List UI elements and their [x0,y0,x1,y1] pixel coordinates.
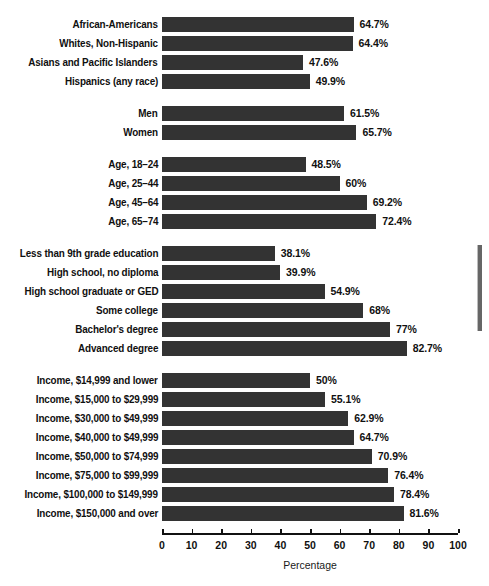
bar-label: Age, 25–44 [108,176,158,191]
bar-value-label: 77% [396,322,417,337]
bar [162,195,367,210]
bar-row: Income, $50,000 to $74,99970.9% [0,449,489,464]
x-axis-title: Percentage [162,559,458,571]
bar [162,506,404,521]
bar-label: African-Americans [73,17,158,32]
bar-value-label: 62.9% [354,411,383,426]
x-axis-tick [251,529,253,533]
bar-label: Income, $30,000 to $49,999 [35,411,158,426]
bar-label: Women [123,125,158,140]
bar-label: Income, $150,000 and over [36,506,158,521]
bar-label: Income, $75,000 to $99,999 [35,468,158,483]
bar-row: Age, 65–7472.4% [0,214,489,229]
bar-chart: African-Americans64.7%Whites, Non-Hispan… [0,0,489,586]
bar-value-label: 60% [346,176,367,191]
bar-row: Less than 9th grade education38.1% [0,246,489,261]
bar-value-label: 49.9% [316,74,345,89]
bar [162,106,344,121]
bar-label: Income, $14,999 and lower [37,373,158,388]
bar-value-label: 64.7% [360,17,389,32]
bar-row: Income, $75,000 to $99,99976.4% [0,468,489,483]
bar-row: Women65.7% [0,125,489,140]
bar-label: Bachelor's degree [75,322,158,337]
x-axis-tick [340,529,342,533]
x-axis-tick [399,529,401,533]
bar-value-label: 68% [369,303,390,318]
bar-row: Whites, Non-Hispanic64.4% [0,36,489,51]
bar-row: Income, $100,000 to $149,99978.4% [0,487,489,502]
bar [162,17,354,32]
bar-row: Some college68% [0,303,489,318]
bar [162,449,372,464]
bar-value-label: 54.9% [331,284,360,299]
bar-row: Age, 18–2448.5% [0,157,489,172]
x-axis-tick [280,529,282,533]
bar-row: High school, no diploma39.9% [0,265,489,280]
bar-value-label: 47.6% [309,55,338,70]
bar-label: Income, $50,000 to $74,999 [35,449,158,464]
bar-label: Hispanics (any race) [65,74,158,89]
bar [162,157,306,172]
bar-label: High school, no diploma [47,265,158,280]
bar-value-label: 76.4% [394,468,423,483]
bar-label: Men [139,106,158,121]
bar-label: Age, 45–64 [108,195,158,210]
x-axis-line [162,533,458,535]
bar-label: High school graduate or GED [24,284,158,299]
bar-value-label: 38.1% [281,246,310,261]
x-axis-tick [369,529,371,533]
bar [162,487,394,502]
bar [162,265,280,280]
bar-row: Hispanics (any race)49.9% [0,74,489,89]
bar-label: Income, $40,000 to $49,999 [35,430,158,445]
bar-value-label: 61.5% [350,106,379,121]
bar-row: Income, $15,000 to $29,99955.1% [0,392,489,407]
bar [162,468,388,483]
bar-value-label: 78.4% [400,487,429,502]
bar-row: Advanced degree82.7% [0,341,489,356]
bar-row: Age, 45–6469.2% [0,195,489,210]
x-axis-tick [192,529,194,533]
bar-value-label: 50% [316,373,337,388]
bar-row: Income, $14,999 and lower50% [0,373,489,388]
bar-value-label: 81.6% [410,506,439,521]
bar-value-label: 82.7% [413,341,442,356]
x-axis-tick [310,529,312,533]
x-axis-tick-label: 100 [438,539,478,551]
bar [162,411,348,426]
bar-label: Income, $100,000 to $149,999 [25,487,158,502]
bar-label: Whites, Non-Hispanic [59,36,158,51]
bar [162,36,353,51]
x-axis-tick [458,529,460,533]
bar [162,246,275,261]
bar-label: Asians and Pacific Islanders [29,55,158,70]
bar [162,373,310,388]
bar-value-label: 64.7% [360,430,389,445]
bar [162,214,376,229]
bar-row: High school graduate or GED54.9% [0,284,489,299]
bar-value-label: 70.9% [378,449,407,464]
x-axis-tick [162,529,164,533]
bar [162,284,325,299]
bar-label: Some college [96,303,158,318]
bar-row: African-Americans64.7% [0,17,489,32]
bar-label: Age, 65–74 [108,214,158,229]
bar [162,55,303,70]
bar-row: Asians and Pacific Islanders47.6% [0,55,489,70]
scrollbar-track[interactable] [480,0,486,586]
bar-value-label: 39.9% [286,265,315,280]
bar [162,303,363,318]
bar-value-label: 69.2% [373,195,402,210]
bar [162,125,356,140]
bar-row: Men61.5% [0,106,489,121]
scrollbar-thumb[interactable] [477,245,482,331]
bar [162,341,407,356]
bar-label: Age, 18–24 [108,157,158,172]
bar [162,392,325,407]
bar-row: Age, 25–4460% [0,176,489,191]
bar-value-label: 65.7% [362,125,391,140]
bar-row: Income, $30,000 to $49,99962.9% [0,411,489,426]
bar [162,322,390,337]
x-axis-tick [221,529,223,533]
bar-value-label: 64.4% [359,36,388,51]
